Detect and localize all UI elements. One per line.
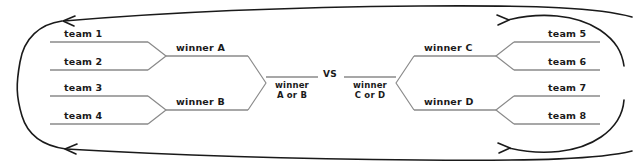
left-round1-brackets xyxy=(148,42,166,124)
winner-a-label: winner A xyxy=(176,42,225,53)
bracket-from-winner-c xyxy=(496,42,514,70)
wrap-bottom-arrow-path xyxy=(66,149,632,160)
team-8-label: team 8 xyxy=(548,110,586,121)
winner-a-or-b-line2: A or B xyxy=(268,90,316,100)
bracket-from-winner-d xyxy=(496,96,514,124)
wrap-right-bottom-arrowhead-icon xyxy=(498,143,510,153)
wrap-top-left-curve xyxy=(17,21,66,149)
wrap-top-arrow-path xyxy=(64,6,632,21)
team-3-label: team 3 xyxy=(64,82,102,93)
bracket-to-winner-b xyxy=(148,96,166,124)
team-6-label: team 6 xyxy=(548,56,586,67)
team-5-label: team 5 xyxy=(548,28,586,39)
winner-a-or-b-slot: winner A or B xyxy=(268,80,316,100)
team-4-label: team 4 xyxy=(64,110,102,121)
winner-b-label: winner B xyxy=(176,96,225,107)
team-7-label: team 7 xyxy=(548,82,586,93)
winner-c-or-d-line2: C or D xyxy=(346,90,394,100)
wrap-right-bottom-curve xyxy=(509,100,624,152)
wrap-right-top-arrowhead-icon xyxy=(497,15,509,25)
winner-c-or-d-slot: winner C or D xyxy=(346,80,394,100)
winner-c-label: winner C xyxy=(424,42,473,53)
winner-c-or-d-line1: winner xyxy=(346,80,394,90)
bracket-to-winner-a-or-b xyxy=(248,56,266,110)
tournament-bracket-diagram: team 1 team 2 team 3 team 4 winner A win… xyxy=(0,0,639,166)
bracket-to-winner-a xyxy=(148,42,166,70)
right-round1-brackets xyxy=(496,42,514,124)
winner-d-label: winner D xyxy=(424,96,473,107)
team-2-label: team 2 xyxy=(64,56,102,67)
team-1-label: team 1 xyxy=(64,28,102,39)
winner-a-or-b-line1: winner xyxy=(268,80,316,90)
left-final-bracket xyxy=(248,56,266,110)
bracket-from-winner-c-or-d xyxy=(396,56,414,110)
right-final-bracket xyxy=(396,56,414,110)
wrap-around-arrows xyxy=(17,6,632,160)
vs-label: VS xyxy=(323,69,337,79)
